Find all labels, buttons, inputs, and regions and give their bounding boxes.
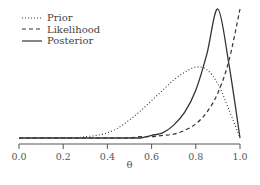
prior-curve [19,67,240,138]
x-tick-label: 1.0 [232,151,247,162]
legend: Prior Likelihood Posterior [21,12,100,47]
legend-item-prior: Prior [21,12,100,24]
solid-line-swatch-icon [21,37,43,45]
dotted-line-swatch-icon [21,14,43,22]
legend-label-prior: Prior [47,12,73,24]
legend-item-likelihood: Likelihood [21,24,100,36]
legend-label-posterior: Posterior [47,35,93,47]
x-tick-label: 0.8 [188,151,203,162]
x-tick-label: 0.0 [11,151,26,162]
legend-item-posterior: Posterior [21,35,100,47]
x-tick-label: 0.6 [144,151,159,162]
x-tick-label: 0.4 [100,151,115,162]
dashed-line-swatch-icon [21,25,43,33]
x-tick-label: 0.2 [56,151,71,162]
x-axis-label: θ [126,159,132,170]
legend-label-likelihood: Likelihood [47,24,100,36]
